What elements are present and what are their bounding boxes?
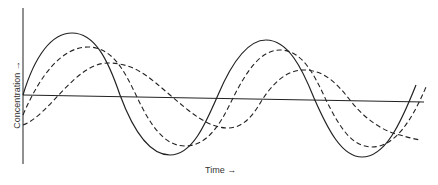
x-axis-label: Time → [205,165,236,175]
curve-dashed-2 [23,63,420,140]
mean-line [23,95,424,102]
y-axis-label: Concentration → [12,50,22,140]
curve-solid [23,33,416,157]
chart-canvas [0,0,438,185]
curve-dashed-1 [23,47,426,147]
